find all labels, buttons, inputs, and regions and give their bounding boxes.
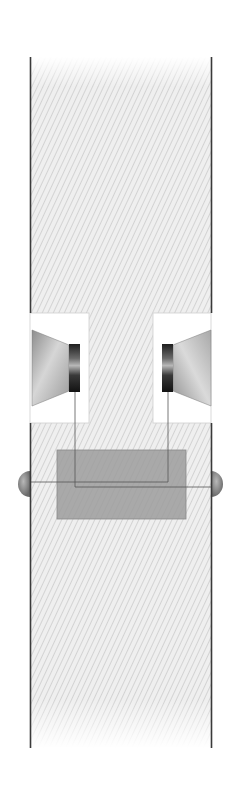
- bottom-fade: [31, 700, 211, 748]
- speaker-magnet-left: [69, 344, 80, 392]
- speaker-magnet-right: [162, 344, 173, 392]
- amplifier-box: [57, 450, 186, 519]
- terminal-left-icon: [18, 471, 30, 497]
- terminal-right-icon: [211, 471, 223, 497]
- speaker-diagram: [0, 0, 237, 790]
- top-fade: [31, 57, 211, 87]
